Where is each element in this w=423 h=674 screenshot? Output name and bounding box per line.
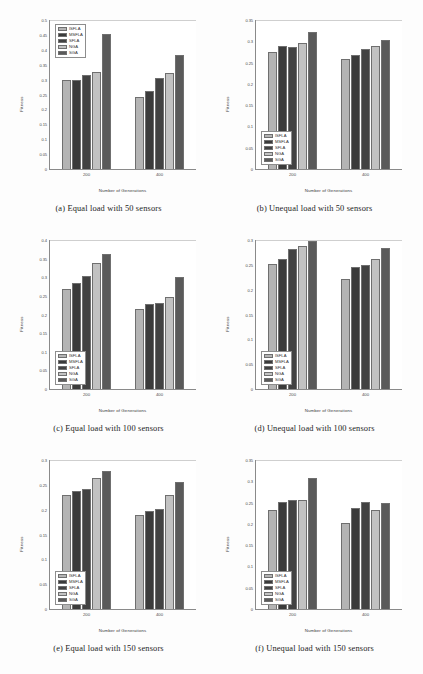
legend-item-isfla[interactable]: ISFLA [58, 573, 83, 578]
legend-item-nga[interactable]: NGA [58, 591, 83, 596]
x-tick-b-0: 200 [289, 172, 296, 177]
legend-swatch-icon [58, 378, 67, 382]
legend-item-sfla[interactable]: SFLA [58, 585, 83, 590]
legend-item-msfla[interactable]: MSFLA [58, 579, 83, 584]
legend-item-sga[interactable]: SGA [264, 597, 289, 602]
legend-item-nga[interactable]: NGA [264, 591, 289, 596]
bar-sga-400 [175, 277, 184, 389]
panel-caption-b: (b) Unequal load with 50 sensors [213, 204, 416, 213]
legend-item-isfla[interactable]: ISFLA [264, 133, 289, 138]
figure-page: Fitness00.050.10.150.20.250.30.350.40.45… [0, 0, 423, 674]
legend-label: ISFLA [69, 574, 80, 578]
legend-label: NGA [69, 372, 78, 376]
y-tick-a-1: 0.05 [39, 152, 50, 157]
legend-item-sga[interactable]: SGA [58, 597, 83, 602]
legend-item-nga[interactable]: NGA [58, 371, 83, 376]
legend-item-sga[interactable]: SGA [264, 157, 289, 162]
legend-item-msfla[interactable]: MSFLA [58, 359, 83, 364]
y-tick-b-1: 0.05 [245, 145, 256, 150]
legend-e[interactable]: ISFLAMSFLASFLANGASGA [55, 571, 86, 605]
legend-swatch-icon [264, 360, 273, 364]
axes-frame-c: 00.050.10.150.20.250.30.350.4200400ISFLA… [49, 240, 196, 390]
y-tick-b-3: 0.15 [245, 103, 256, 108]
x-tick-c-0: 200 [83, 392, 90, 397]
legend-item-nga[interactable]: NGA [264, 151, 289, 156]
legend-label: ISFLA [275, 574, 286, 578]
y-axis-label-d: Fitness [225, 316, 230, 331]
bar-nga-200 [92, 263, 101, 389]
y-tick-d-5: 0.25 [245, 262, 256, 267]
y-tick-e-5: 0.25 [39, 482, 50, 487]
legend-a[interactable]: ISFLAMSFLASFLANGASGA [55, 24, 86, 58]
bar-msfla-400 [145, 304, 154, 389]
legend-item-sfla[interactable]: SFLA [264, 585, 289, 590]
legend-label: SGA [69, 598, 78, 602]
legend-label: ISFLA [275, 354, 286, 358]
bar-nga-200 [298, 500, 307, 609]
legend-item-sfla[interactable]: SFLA [264, 365, 289, 370]
legend-d[interactable]: ISFLAMSFLASFLANGASGA [261, 351, 292, 385]
y-tick-f-2: 0.1 [248, 564, 256, 569]
legend-label: NGA [275, 152, 284, 156]
chart-panel-f: Fitness00.050.10.150.20.250.30.35200400I… [213, 446, 416, 666]
bar-isfla-400 [135, 97, 144, 169]
bar-isfla-400 [341, 279, 350, 389]
y-tick-f-6: 0.3 [248, 479, 256, 484]
legend-swatch-icon [58, 354, 67, 358]
legend-item-isfla[interactable]: ISFLA [264, 573, 289, 578]
legend-swatch-icon [58, 574, 67, 578]
chart-panel-d: Fitness00.050.10.150.20.250.3200400ISFLA… [213, 226, 416, 446]
y-tick-c-8: 0.4 [42, 238, 50, 243]
chart-panel-c: Fitness00.050.10.150.20.250.30.350.42004… [7, 226, 210, 446]
bar-nga-400 [165, 297, 174, 389]
legend-item-sga[interactable]: SGA [58, 50, 83, 55]
x-tick-e-1: 400 [156, 612, 163, 617]
legend-f[interactable]: ISFLAMSFLASFLANGASGA [261, 571, 292, 605]
legend-item-msfla[interactable]: MSFLA [58, 32, 83, 37]
legend-b[interactable]: ISFLAMSFLASFLANGASGA [261, 131, 292, 165]
legend-label: NGA [69, 592, 78, 596]
y-tick-b-5: 0.25 [245, 60, 256, 65]
legend-swatch-icon [264, 354, 273, 358]
bar-sga-400 [381, 40, 390, 169]
legend-item-sga[interactable]: SGA [58, 377, 83, 382]
bar-sfla-400 [361, 502, 370, 609]
legend-label: MSFLA [69, 33, 83, 37]
x-tick-f-0: 200 [289, 612, 296, 617]
y-tick-a-9: 0.45 [39, 32, 50, 37]
bar-sga-200 [102, 471, 111, 609]
bar-nga-400 [371, 259, 380, 389]
legend-item-sfla[interactable]: SFLA [264, 145, 289, 150]
y-tick-c-3: 0.15 [39, 331, 50, 336]
panel-caption-c: (c) Equal load with 100 sensors [7, 424, 210, 433]
x-tick-b-1: 400 [362, 172, 369, 177]
axes-frame-e: 00.050.10.150.20.250.3200400ISFLAMSFLASF… [49, 460, 196, 610]
x-tick-e-0: 200 [83, 612, 90, 617]
legend-item-msfla[interactable]: MSFLA [264, 359, 289, 364]
legend-c[interactable]: ISFLAMSFLASFLANGASGA [55, 351, 86, 385]
axes-frame-b: 00.050.10.150.20.250.30.35200400ISFLAMSF… [255, 20, 402, 170]
legend-label: MSFLA [275, 580, 289, 584]
bar-nga-200 [298, 246, 307, 389]
bar-sfla-400 [155, 509, 164, 609]
legend-label: MSFLA [69, 580, 83, 584]
legend-item-isfla[interactable]: ISFLA [264, 353, 289, 358]
legend-item-msfla[interactable]: MSFLA [264, 579, 289, 584]
legend-label: SGA [275, 378, 284, 382]
y-tick-a-7: 0.35 [39, 62, 50, 67]
legend-label: SFLA [69, 366, 79, 370]
legend-item-sfla[interactable]: SFLA [58, 365, 83, 370]
axes-frame-a: 00.050.10.150.20.250.30.350.40.450.52004… [49, 20, 196, 170]
legend-swatch-icon [264, 592, 273, 596]
legend-item-sga[interactable]: SGA [264, 377, 289, 382]
legend-label: SFLA [275, 366, 285, 370]
y-axis-label-b: Fitness [225, 96, 230, 111]
legend-item-nga[interactable]: NGA [58, 44, 83, 49]
legend-item-nga[interactable]: NGA [264, 371, 289, 376]
legend-item-isfla[interactable]: ISFLA [58, 353, 83, 358]
bar-sga-200 [102, 34, 111, 169]
legend-item-sfla[interactable]: SFLA [58, 38, 83, 43]
plot-area-e: Fitness00.050.10.150.20.250.3200400ISFLA… [7, 446, 210, 642]
legend-item-msfla[interactable]: MSFLA [264, 139, 289, 144]
legend-item-isfla[interactable]: ISFLA [58, 27, 83, 32]
